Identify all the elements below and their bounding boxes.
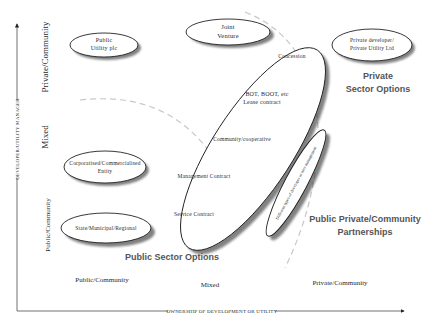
svg-text:Corporatised/Commercialised: Corporatised/Commercialised xyxy=(69,160,140,166)
contract-lease: Lease contract xyxy=(243,99,281,105)
contract-bot-boot: BOT, BOOT, etc xyxy=(245,91,288,97)
public-sector-options: Public Sector Options xyxy=(125,252,219,262)
private-sector-options-line1: Private xyxy=(363,71,393,81)
svg-text:Entity: Entity xyxy=(98,168,113,174)
entity-state-municipal: State/Municipal/Regional xyxy=(61,213,155,247)
y-level-private-community: Private/Community xyxy=(40,21,50,92)
svg-text:Venture: Venture xyxy=(217,32,239,39)
entity-public-utility: Public Utility plc xyxy=(70,33,141,60)
svg-text:Private developer/: Private developer/ xyxy=(350,37,394,43)
x-axis-title: OWNERSHIP OF DEVELOPMENT OR UTILITY xyxy=(167,309,278,314)
svg-text:State/Municipal/Regional: State/Municipal/Regional xyxy=(75,225,137,231)
ppp-line1: Public Private/Community xyxy=(309,214,421,224)
entity-joint-venture: Joint Venture xyxy=(186,19,274,48)
contract-service: Service Contract xyxy=(174,211,214,217)
entity-corporatised: Corporatised/Commercialised Entity xyxy=(64,151,149,186)
x-level-mixed: Mixed xyxy=(201,281,220,289)
y-axis: DEVELOPER/UTILITY MANAGER xyxy=(15,24,20,311)
svg-text:Private Utility Ltd: Private Utility Ltd xyxy=(350,45,394,51)
x-level-public-community: Public/Community xyxy=(75,276,129,284)
contract-management: Management Contract xyxy=(178,173,231,179)
y-level-public-community: Public/Community xyxy=(44,198,52,252)
svg-text:Utility plc: Utility plc xyxy=(91,45,118,51)
private-sector-options-line2: Sector Options xyxy=(346,84,411,94)
svg-text:Joint: Joint xyxy=(221,23,235,30)
contract-community-cooperative: Community/cooperative xyxy=(213,136,271,142)
svg-text:Public: Public xyxy=(96,37,113,43)
contract-concession: Concession xyxy=(278,53,305,59)
ownership-management-diagram: DEVELOPER/UTILITY MANAGER OWNERSHIP OF D… xyxy=(0,0,433,327)
x-axis: OWNERSHIP OF DEVELOPMENT OR UTILITY xyxy=(17,309,404,314)
y-level-mixed: Mixed xyxy=(40,125,50,149)
ppp-line2: Partnerships xyxy=(337,227,392,237)
x-level-private-community: Private/Community xyxy=(312,279,368,287)
y-axis-title: DEVELOPER/UTILITY MANAGER xyxy=(15,98,20,180)
entity-private-developer: Private developer/ Private Utility Ltd xyxy=(332,29,415,64)
